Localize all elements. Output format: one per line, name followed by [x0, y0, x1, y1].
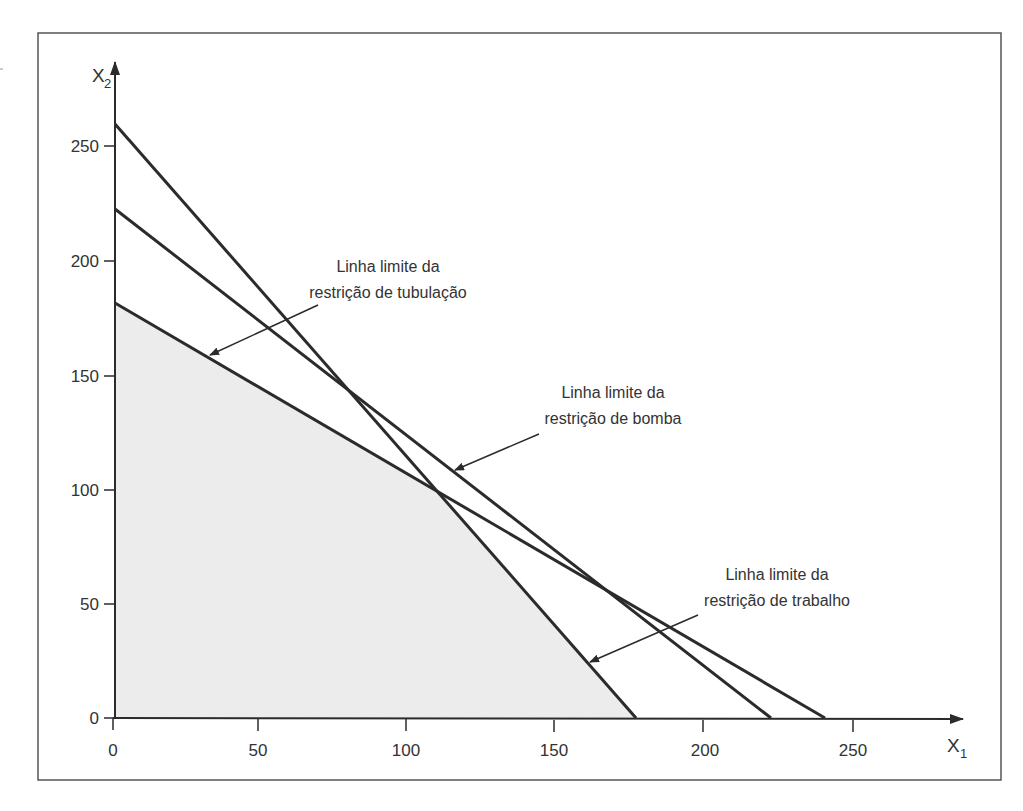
- annotation-trabalho: Linha limite da restrição de trabalho: [590, 566, 850, 662]
- annotation-bomba: Linha limite da restrição de bomba: [455, 384, 682, 470]
- annotation-tubulacao: Linha limite da restrição de tubulação: [210, 258, 467, 355]
- annotation-trabalho-arrow: [590, 615, 698, 662]
- x-tick-150: 150: [540, 741, 568, 760]
- annotation-bomba-line1: Linha limite da: [561, 384, 664, 401]
- x-tick-250: 250: [839, 741, 867, 760]
- y-tick-250: 250: [71, 137, 99, 156]
- y-axis-label-sub: 2: [104, 76, 111, 91]
- chart-canvas: 250 200 150 100 50 0 0 50 100 150 200 25…: [0, 0, 1023, 811]
- x-tick-200: 200: [691, 741, 719, 760]
- x-tick-50: 50: [249, 741, 268, 760]
- x-tick-labels: 0 50 100 150 200 250: [108, 741, 867, 760]
- annotation-trabalho-line1: Linha limite da: [725, 566, 828, 583]
- y-tick-0: 0: [90, 709, 99, 728]
- x-axis-label: X 1: [947, 735, 967, 761]
- x-tick-100: 100: [392, 741, 420, 760]
- annotation-tubulacao-line2: restrição de tubulação: [309, 284, 467, 301]
- y-axis-label: X 2: [92, 65, 111, 91]
- annotation-tubulacao-line1: Linha limite da: [336, 258, 439, 275]
- y-tick-labels: 250 200 150 100 50 0: [71, 137, 99, 728]
- x-axis: [113, 718, 963, 719]
- feasible-region: [115, 303, 636, 718]
- y-tick-200: 200: [71, 252, 99, 271]
- y-tick-50: 50: [80, 595, 99, 614]
- y-tick-100: 100: [71, 481, 99, 500]
- y-tick-150: 150: [71, 367, 99, 386]
- annotation-tubulacao-arrow: [210, 305, 318, 355]
- x-axis-label-sub: 1: [960, 746, 967, 761]
- y-ticks: [104, 146, 115, 718]
- x-ticks: [113, 718, 853, 732]
- annotation-bomba-line2: restrição de bomba: [545, 410, 682, 427]
- x-tick-0: 0: [108, 741, 117, 760]
- annotation-trabalho-line2: restrição de trabalho: [704, 592, 850, 609]
- x-axis-label-main: X: [947, 735, 960, 756]
- annotation-bomba-arrow: [455, 434, 539, 470]
